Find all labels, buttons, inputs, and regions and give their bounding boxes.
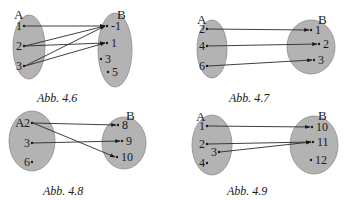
set-a-element: 2: [199, 137, 205, 151]
element-dot: [318, 43, 320, 45]
set-b-element: -1: [111, 19, 121, 33]
element-dot: [31, 161, 33, 163]
set-a-element: 4: [199, 156, 205, 170]
element-dot: [206, 143, 208, 145]
element-dot: [206, 125, 208, 127]
element-dot: [23, 65, 25, 67]
set-a-element: 3: [211, 145, 217, 159]
set-a-element: 6: [199, 59, 205, 73]
element-dot: [206, 45, 208, 47]
element-dot: [23, 25, 25, 27]
set-a-element: 3: [24, 136, 30, 150]
element-dot: [117, 124, 119, 126]
mapping-diagrams-figure: A123B-1135 Abb. 4.6 A246B123 Abb. 4.7 A2…: [0, 0, 345, 200]
caption-abb-4-8: Abb. 4.8: [42, 184, 83, 198]
diagram-4-7: A246B123 Abb. 4.7: [197, 12, 335, 105]
element-dot: [312, 141, 314, 143]
set-b-element: 12: [315, 153, 327, 167]
set-b-element: 3: [105, 52, 111, 66]
element-dot: [313, 59, 315, 61]
set-b-element: 10: [121, 150, 133, 164]
caption-abb-4-7: Abb. 4.7: [228, 91, 270, 105]
element-dot: [206, 162, 208, 164]
element-dot: [310, 29, 312, 31]
set-b-element: 9: [126, 134, 132, 148]
element-dot: [206, 28, 208, 30]
set-a-element: 4: [199, 39, 205, 53]
element-dot: [310, 159, 312, 161]
element-dot: [116, 156, 118, 158]
diagram-4-6: A123B-1135 Abb. 4.6: [13, 7, 132, 105]
set-a-element: 2: [16, 39, 22, 53]
element-dot: [106, 42, 108, 44]
set-b-element: 8: [122, 118, 128, 132]
set-a-element: 2: [199, 22, 205, 36]
diagram-4-9: A1234B101112 Abb. 4.9: [192, 108, 338, 198]
element-dot: [107, 71, 109, 73]
set-b-element: 1: [111, 36, 117, 50]
set-a-element: 1: [199, 119, 205, 133]
set-b-element: 3: [318, 53, 324, 67]
set-b-element: 10: [316, 120, 328, 134]
element-dot: [121, 140, 123, 142]
set-b-element: 1: [315, 23, 321, 37]
element-dot: [206, 65, 208, 67]
element-dot: [106, 25, 108, 27]
element-dot: [31, 122, 33, 124]
element-dot: [100, 58, 102, 60]
set-a-element: 2: [24, 116, 30, 130]
diagram-4-8: A236B8910 Abb. 4.8: [9, 108, 146, 198]
set-a-element: 3: [16, 59, 22, 73]
element-dot: [31, 142, 33, 144]
set-b-element: 2: [323, 37, 329, 51]
caption-abb-4-9: Abb. 4.9: [226, 184, 267, 198]
set-a-element: 6: [24, 155, 30, 169]
caption-abb-4-6: Abb. 4.6: [36, 91, 77, 105]
set-b-ellipse: [290, 116, 338, 174]
set-b-element: 11: [317, 135, 329, 149]
element-dot: [23, 45, 25, 47]
set-b-element: 5: [112, 65, 118, 79]
element-dot: [311, 126, 313, 128]
element-dot: [218, 151, 220, 153]
set-a-element: 1: [16, 19, 22, 33]
